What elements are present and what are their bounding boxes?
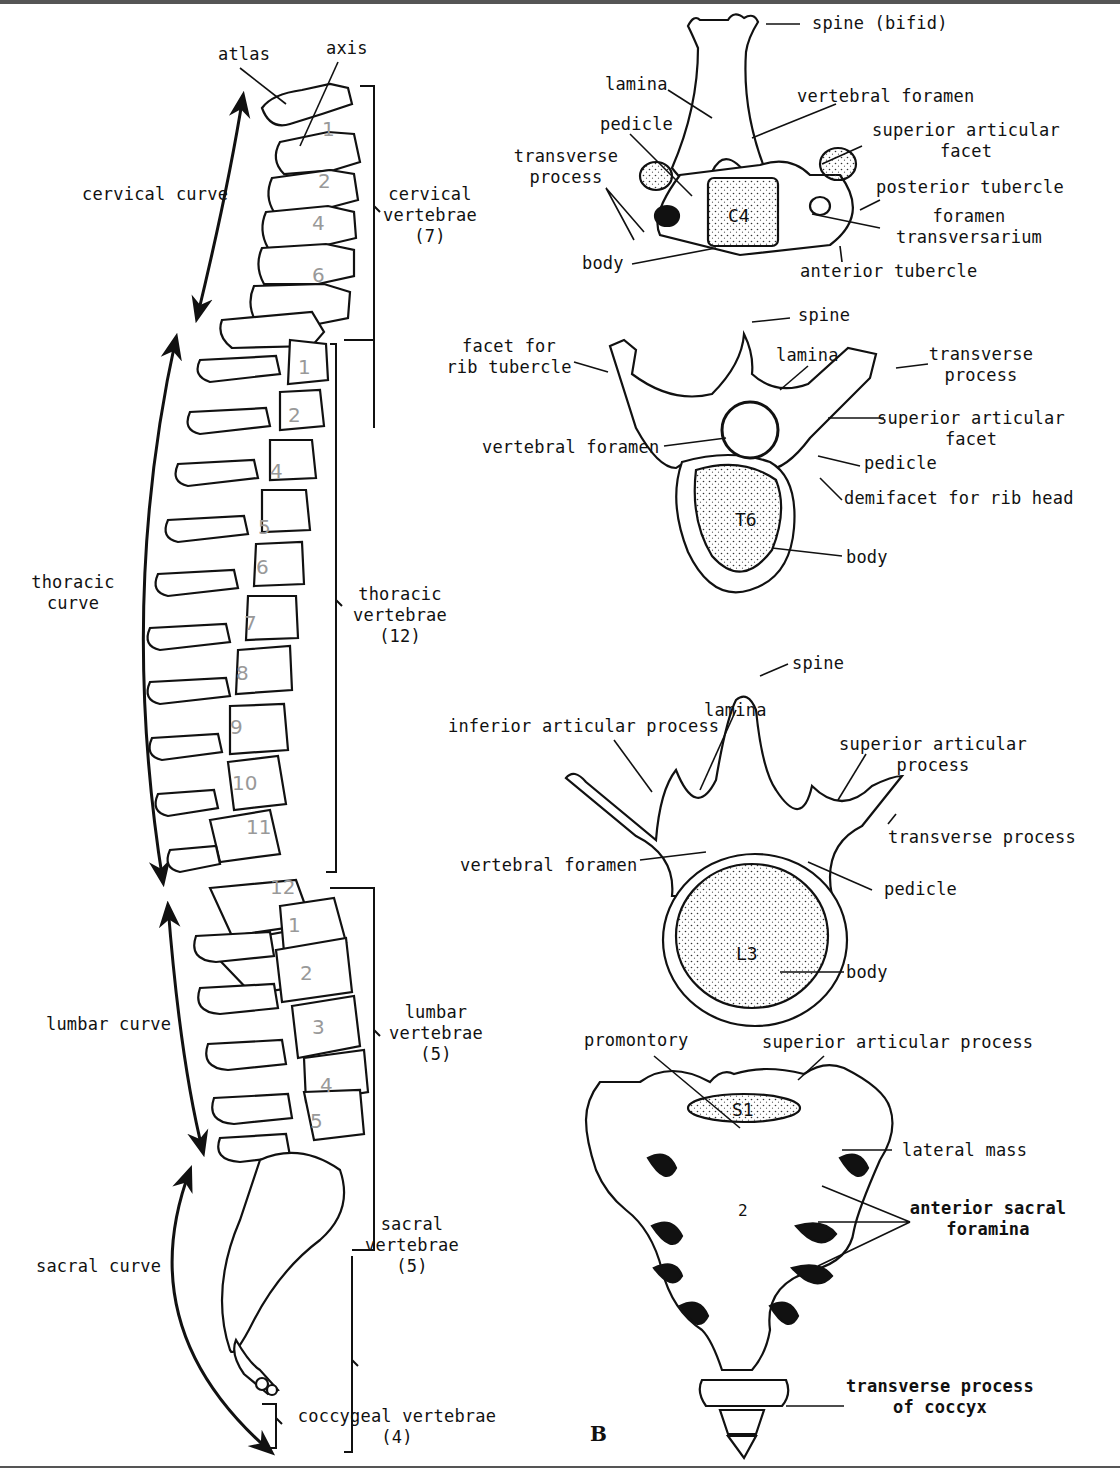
label-thoracic-vertebrae: thoracic vertebrae (12) bbox=[350, 584, 450, 647]
svg-text:2: 2 bbox=[300, 961, 313, 985]
c4-body-label: C4 bbox=[728, 205, 750, 226]
coccyx-process-line1: transverse process bbox=[840, 1376, 1040, 1397]
cervical-line1: cervical bbox=[380, 184, 480, 205]
t6-label-facet-rib-tubercle: facet for rib tubercle bbox=[444, 336, 574, 378]
thoracic-line1: thoracic bbox=[350, 584, 450, 605]
t6-label-pedicle: pedicle bbox=[864, 453, 937, 474]
sacrum-label-lateral-mass: lateral mass bbox=[902, 1140, 1027, 1161]
coccyx-process-line2: of coccyx bbox=[840, 1397, 1040, 1418]
svg-text:6: 6 bbox=[256, 555, 269, 579]
t6-vertebra bbox=[610, 334, 876, 592]
lumbar-count: (5) bbox=[386, 1044, 486, 1065]
sacrum-foramina-line1: anterior sacral bbox=[890, 1198, 1086, 1219]
figure-panel-letter: B bbox=[590, 1422, 607, 1446]
sacrum-foramina-line2: foramina bbox=[890, 1219, 1086, 1240]
c4-label-anterior-tubercle: anterior tubercle bbox=[800, 261, 977, 282]
l3-label-spine: spine bbox=[792, 653, 844, 674]
t6-label-body: body bbox=[846, 547, 888, 568]
label-thoracic-curve: thoracic curve bbox=[28, 572, 118, 614]
c4-label-lamina: lamina bbox=[605, 74, 668, 95]
c4-label-transverse-process: transverse process bbox=[510, 146, 622, 188]
label-sacral-curve: sacral curve bbox=[36, 1256, 161, 1277]
t6-transverse-line2: process bbox=[928, 365, 1034, 386]
sacral-line1: sacral bbox=[362, 1214, 462, 1235]
c4-label-body: body bbox=[582, 253, 624, 274]
l3-label-body: body bbox=[846, 962, 888, 983]
lumbar-line2: vertebrae bbox=[386, 1023, 486, 1044]
svg-text:2: 2 bbox=[318, 169, 331, 193]
l3-label-inferior-articular-process: inferior articular process bbox=[448, 716, 719, 737]
label-sacral-vertebrae: sacral vertebrae (5) bbox=[362, 1214, 462, 1277]
c4-label-vertebral-foramen: vertebral foramen bbox=[797, 86, 974, 107]
t6-body-label: T6 bbox=[735, 509, 757, 530]
c4-label-superior-articular-facet: superior articular facet bbox=[866, 120, 1066, 162]
t6-label-lamina: lamina bbox=[776, 345, 839, 366]
l3-label-transverse-process: transverse process bbox=[888, 827, 1076, 848]
t6-superior-facet-line1: superior articular bbox=[876, 408, 1066, 429]
svg-text:11: 11 bbox=[246, 815, 271, 839]
label-coccygeal-vertebrae: coccygeal vertebrae (4) bbox=[292, 1406, 502, 1448]
sacral-count: (5) bbox=[362, 1256, 462, 1277]
label-lumbar-curve: lumbar curve bbox=[46, 1014, 171, 1035]
l3-body-label: L3 bbox=[736, 943, 758, 964]
c4-label-spine: spine (bifid) bbox=[812, 13, 948, 34]
t6-facet-rib-line1: facet for bbox=[444, 336, 574, 357]
sacrum-label-transverse-process-coccyx: transverse process of coccyx bbox=[840, 1376, 1040, 1418]
thoracic-curve-line2: curve bbox=[28, 593, 118, 614]
sacrum-s1-label: S1 bbox=[732, 1099, 754, 1120]
t6-facet-rib-line2: rib tubercle bbox=[444, 357, 574, 378]
coccygeal-line1: coccygeal vertebrae bbox=[292, 1406, 502, 1427]
l3-label-vertebral-foramen: vertebral foramen bbox=[460, 855, 637, 876]
svg-text:6: 6 bbox=[312, 263, 325, 287]
sacrum-label-promontory: promontory bbox=[584, 1030, 688, 1051]
c4-foramen-transversarium-line2: transversarium bbox=[880, 227, 1058, 248]
c4-foramen-transversarium-line1: foramen bbox=[880, 206, 1058, 227]
svg-text:4: 4 bbox=[312, 211, 325, 235]
t6-label-vertebral-foramen: vertebral foramen bbox=[482, 437, 659, 458]
svg-text:1: 1 bbox=[322, 117, 335, 141]
svg-text:8: 8 bbox=[236, 661, 249, 685]
svg-text:3: 3 bbox=[312, 1015, 325, 1039]
t6-label-superior-articular-facet: superior articular facet bbox=[876, 408, 1066, 450]
svg-text:7: 7 bbox=[244, 611, 257, 635]
label-cervical-curve: cervical curve bbox=[82, 184, 228, 205]
svg-text:1: 1 bbox=[298, 355, 311, 379]
c4-transverse-line2: process bbox=[510, 167, 622, 188]
t6-superior-facet-line2: facet bbox=[876, 429, 1066, 450]
svg-text:10: 10 bbox=[232, 771, 257, 795]
thoracic-line2: vertebrae bbox=[350, 605, 450, 626]
thoracic-count: (12) bbox=[350, 626, 450, 647]
c4-superior-facet-line1: superior articular bbox=[866, 120, 1066, 141]
c4-label-foramen-transversarium: foramen transversarium bbox=[880, 206, 1058, 248]
sacrum-label-anterior-sacral-foramina: anterior sacral foramina bbox=[890, 1198, 1086, 1240]
coccygeal-count: (4) bbox=[292, 1427, 502, 1448]
sacrum-s2-label: 2 bbox=[738, 1201, 748, 1220]
c4-label-pedicle: pedicle bbox=[600, 114, 673, 135]
l3-label-pedicle: pedicle bbox=[884, 879, 957, 900]
label-axis: axis bbox=[326, 38, 368, 59]
svg-text:12: 12 bbox=[270, 875, 295, 899]
t6-label-transverse-process: transverse process bbox=[928, 344, 1034, 386]
c4-label-posterior-tubercle: posterior tubercle bbox=[876, 177, 1064, 198]
cervical-count: (7) bbox=[380, 226, 480, 247]
cervical-line2: vertebrae bbox=[380, 205, 480, 226]
lumbar-line1: lumbar bbox=[386, 1002, 486, 1023]
sacral-line2: vertebrae bbox=[362, 1235, 462, 1256]
l3-label-superior-articular-process: superior articular process bbox=[838, 734, 1028, 776]
svg-text:5: 5 bbox=[310, 1109, 323, 1133]
svg-text:2: 2 bbox=[288, 403, 301, 427]
l3-superior-process-line2: process bbox=[838, 755, 1028, 776]
t6-label-spine: spine bbox=[798, 305, 850, 326]
sacrum-label-superior-articular-process: superior articular process bbox=[762, 1032, 1033, 1053]
label-atlas: atlas bbox=[218, 44, 270, 65]
label-cervical-vertebrae: cervical vertebrae (7) bbox=[380, 184, 480, 247]
c4-superior-facet-line2: facet bbox=[866, 141, 1066, 162]
svg-text:9: 9 bbox=[230, 715, 243, 739]
t6-transverse-line1: transverse bbox=[928, 344, 1034, 365]
svg-text:1: 1 bbox=[288, 913, 301, 937]
label-lumbar-vertebrae: lumbar vertebrae (5) bbox=[386, 1002, 486, 1065]
svg-text:5: 5 bbox=[258, 515, 271, 539]
thoracic-curve-line1: thoracic bbox=[28, 572, 118, 593]
svg-text:4: 4 bbox=[270, 459, 283, 483]
svg-text:4: 4 bbox=[320, 1073, 333, 1097]
